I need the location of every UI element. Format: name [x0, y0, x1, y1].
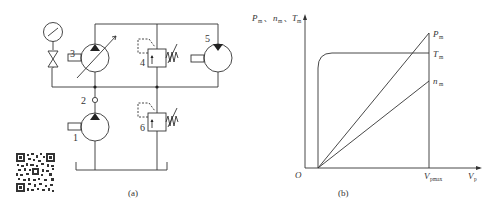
svg-text:n: n [433, 76, 438, 86]
curve-nm [318, 81, 429, 168]
y-axis-label: P m 、 n m 、 T m [251, 13, 302, 24]
component-label-6: 6 [140, 122, 145, 133]
svg-text:m: m [439, 34, 444, 40]
svg-text:、: 、 [284, 15, 291, 23]
check-valve-2-icon [92, 97, 97, 102]
origin-label: O [295, 170, 302, 180]
component-label-4: 4 [140, 57, 145, 68]
x-axis-label: V p [468, 171, 477, 182]
qr-code [16, 153, 55, 192]
x-marker-label: V pmax [424, 171, 442, 182]
svg-text:m: m [439, 81, 444, 87]
svg-text:m: m [278, 18, 283, 24]
variable-pump-3-icon [68, 36, 116, 78]
svg-text:m: m [297, 18, 302, 24]
svg-text:pmax: pmax [430, 176, 442, 182]
component-label-5: 5 [205, 33, 210, 44]
tank-icon [76, 162, 167, 170]
hydraulic-circuit [52, 24, 218, 170]
svg-text:m: m [258, 18, 263, 24]
svg-text:m: m [439, 54, 444, 60]
chart-axes [303, 14, 482, 170]
component-label-1: 1 [73, 132, 78, 143]
motor-5-icon [191, 44, 232, 72]
junction-dot [155, 85, 158, 88]
caption-a: (a) [128, 188, 138, 198]
svg-text:、: 、 [264, 15, 271, 23]
y-axis-arrow-icon [303, 14, 307, 20]
svg-text:P: P [251, 13, 258, 23]
curve-label-tm: T m [433, 49, 444, 60]
caption-b: (b) [338, 188, 349, 198]
figure-canvas: 3 2 1 4 5 6 (a) P m 、 n m 、 T m O V pmax… [0, 0, 488, 210]
component-label-3: 3 [70, 48, 75, 59]
component-label-2: 2 [81, 95, 86, 106]
shutoff-valve-icon [48, 51, 58, 68]
svg-text:p: p [474, 176, 477, 182]
curve-label-pm: P m [432, 29, 444, 40]
junction-dot [93, 85, 96, 88]
x-axis-arrow-icon [476, 166, 482, 170]
curve-label-nm: n m [433, 76, 444, 87]
pressure-gauge-icon [44, 23, 63, 51]
svg-text:P: P [432, 29, 439, 39]
curve-tm [318, 53, 429, 168]
